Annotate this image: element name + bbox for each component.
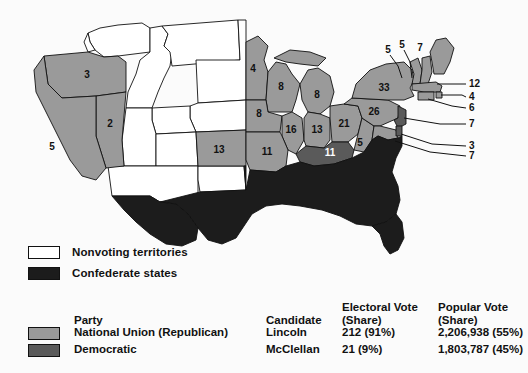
row-candidate-lincoln: Lincoln [266, 326, 342, 339]
legend-label-nonvoting: Nonvoting territories [72, 246, 188, 258]
header-swatch-spacer [28, 312, 74, 326]
label-oregon: 3 [84, 69, 90, 80]
label-vermont: 5 [385, 44, 391, 55]
label-nevada: 2 [107, 118, 113, 129]
row-swatch-republican [28, 326, 74, 340]
label-missouri: 11 [262, 146, 273, 157]
label-california: 5 [49, 141, 55, 152]
label-ohio: 21 [338, 118, 350, 129]
legend-swatch-nonvoting [28, 246, 60, 259]
label-minnesota: 4 [250, 63, 256, 74]
row-candidate-mcclellan: McClellan [266, 343, 342, 356]
row-party-republican: National Union (Republican) [74, 326, 266, 339]
label-wisconsin: 8 [278, 81, 284, 92]
legend-item-confederate: Confederate states [28, 264, 188, 282]
table-row: National Union (Republican) Lincoln 212 … [28, 326, 476, 343]
row-swatch-democratic [28, 343, 74, 357]
label-kentucky: 11 [325, 147, 336, 158]
table-row: Democratic McClellan 21 (9%) 1,803,787 (… [28, 343, 476, 360]
callout-massachusetts: 12 [469, 78, 481, 89]
map-legend: Nonvoting territories Confederate states [28, 243, 188, 285]
label-iowa: 8 [256, 108, 262, 119]
row-electoral-mcclellan: 21 (9%) [342, 343, 438, 356]
legend-swatch-republican [28, 327, 60, 340]
callout-maryland: 7 [469, 150, 475, 161]
callout-new-jersey: 7 [469, 118, 475, 129]
header-popular-vote: Popular Vote (Share) [438, 301, 528, 326]
row-popular-mcclellan: 1,803,787 (45%) [438, 343, 528, 356]
row-electoral-lincoln: 212 (91%) [342, 326, 438, 339]
legend-swatch-democratic [28, 344, 60, 357]
label-indiana: 13 [311, 124, 323, 135]
legend-label-confederate: Confederate states [72, 267, 177, 279]
row-party-democratic: Democratic [74, 343, 266, 356]
legend-swatch-confederate [28, 267, 60, 280]
header-party: Party [74, 314, 266, 327]
header-candidate: Candidate [266, 314, 342, 327]
callout-connecticut: 6 [469, 102, 475, 113]
label-kansas: 13 [213, 144, 225, 155]
header-electoral-vote: Electoral Vote (Share) [342, 301, 438, 326]
label-michigan: 8 [314, 89, 320, 100]
label-pennsylvania: 26 [368, 106, 380, 117]
row-popular-lincoln: 2,206,938 (55%) [438, 326, 528, 339]
label-west-virginia: 5 [357, 137, 363, 148]
table-header-row: Party Candidate Electoral Vote (Share) P… [28, 298, 476, 326]
legend-item-nonvoting: Nonvoting territories [28, 243, 188, 261]
label-maine: 7 [417, 42, 423, 53]
label-new-york: 33 [378, 82, 390, 93]
callout-rhode-island: 4 [469, 91, 475, 102]
us-electoral-map: 3 2 5 13 4 8 8 8 16 13 21 11 11 5 26 33 … [0, 0, 483, 260]
results-table: Party Candidate Electoral Vote (Share) P… [28, 298, 476, 360]
label-illinois: 16 [285, 124, 297, 135]
label-new-hampshire: 5 [399, 39, 405, 50]
